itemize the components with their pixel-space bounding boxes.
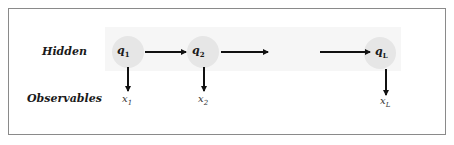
arrows-layer (0, 0, 454, 145)
